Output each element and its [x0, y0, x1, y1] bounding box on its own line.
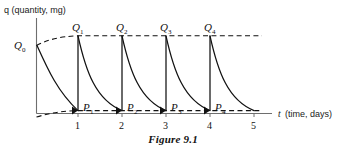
label-q1-var: Q: [72, 21, 80, 33]
x-tick-label-2: 2: [119, 120, 124, 131]
label-q2-sub: 2: [124, 28, 128, 36]
x-axis-var-label: t: [278, 109, 281, 119]
decay-curve-4: [166, 36, 210, 111]
decay-curve-5: [210, 36, 254, 111]
label-q0-var: Q: [14, 39, 22, 51]
x-axis-unit-label: (time, days): [285, 109, 332, 119]
label-q0-sub: 0: [22, 46, 26, 54]
decay-curve-2: [78, 36, 122, 111]
upper-asymptote-dashed: [37, 36, 263, 46]
label-p1-sub: 1: [90, 108, 94, 116]
x-tick-label-4: 4: [207, 120, 212, 131]
label-p2-var: P: [126, 101, 134, 113]
decay-curve-3: [122, 36, 166, 111]
label-p2-sub: 2: [134, 108, 138, 116]
label-q3-var: Q: [160, 21, 168, 33]
x-tick-label-1: 1: [75, 120, 80, 131]
label-p4-var: P: [214, 101, 222, 113]
label-p4-sub: 4: [222, 108, 226, 116]
figure-container: q (quantity, mg) t (time, days) Q 0 Q 1 …: [0, 0, 346, 160]
label-q2-var: Q: [116, 21, 124, 33]
label-q3-sub: 3: [168, 28, 172, 36]
label-q4-var: Q: [204, 21, 212, 33]
label-p1-var: P: [82, 101, 90, 113]
label-p3-var: P: [170, 101, 178, 113]
label-p3-sub: 3: [178, 108, 182, 116]
x-tick-label-5: 5: [251, 120, 256, 131]
figure-caption: Figure 9.1: [0, 133, 346, 145]
x-tick-label-3: 3: [163, 120, 168, 131]
label-q4-sub: 4: [212, 28, 216, 36]
label-q1-sub: 1: [80, 28, 84, 36]
y-axis-label: q (quantity, mg): [4, 5, 66, 15]
decay-curve-1: [37, 46, 78, 111]
